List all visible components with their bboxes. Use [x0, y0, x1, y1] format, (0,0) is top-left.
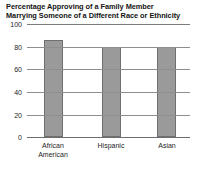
- bar-african-american: [44, 40, 63, 137]
- xlabel-asian: Asian: [138, 141, 196, 150]
- gridline-60: [27, 69, 190, 70]
- gridline-40: [27, 92, 190, 93]
- ytick-label-40: 40: [0, 89, 22, 96]
- axis-baseline: [27, 137, 190, 138]
- ytick-label-100: 100: [0, 21, 22, 28]
- ytick-label-20: 20: [0, 112, 22, 119]
- bar-chart: Percentage Approving of a Family Member …: [0, 0, 202, 180]
- gridline-20: [27, 115, 190, 116]
- xlabel-hispanic: Hispanic: [82, 141, 140, 150]
- ytick-label-80: 80: [0, 44, 22, 51]
- xlabel-african-american: African American: [24, 141, 82, 159]
- ytick-label-0: 0: [0, 134, 22, 141]
- gridline-100: [27, 24, 190, 25]
- plot-area: 100 80 60 40 20 0 African American Hispa…: [0, 0, 202, 180]
- gridline-80: [27, 47, 190, 48]
- ytick-label-60: 60: [0, 66, 22, 73]
